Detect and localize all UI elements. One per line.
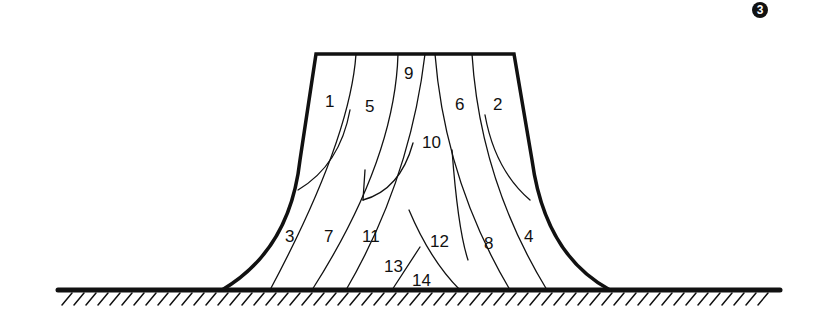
- ground-hatching: [62, 293, 768, 305]
- label-13: 13: [384, 257, 403, 276]
- label-1: 1: [325, 92, 334, 111]
- label-10: 10: [422, 133, 441, 152]
- label-5: 5: [365, 97, 374, 116]
- mound-diagram: 1 5 9 6 2 10 3 7 11 12 8 4 13 14: [0, 0, 824, 336]
- label-11: 11: [362, 227, 380, 246]
- label-2: 2: [493, 95, 502, 114]
- label-8: 8: [484, 234, 493, 253]
- label-7: 7: [324, 227, 333, 246]
- label-14: 14: [412, 271, 431, 290]
- mound-outline: [222, 54, 610, 290]
- label-12: 12: [430, 232, 449, 251]
- label-9: 9: [404, 64, 413, 83]
- layer-labels: 1 5 9 6 2 10 3 7 11 12 8 4 13 14: [285, 64, 533, 290]
- label-6: 6: [455, 95, 464, 114]
- label-4: 4: [524, 227, 533, 246]
- label-3: 3: [285, 227, 294, 246]
